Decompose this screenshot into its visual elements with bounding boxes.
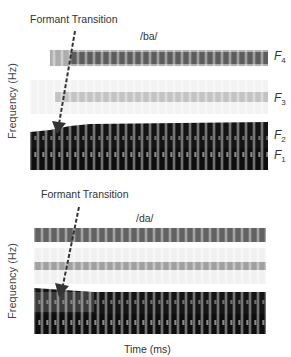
annotation-formant-transition-top: Formant Transition bbox=[30, 13, 118, 25]
spectrogram-da bbox=[34, 222, 266, 334]
formant-label-f4: F4 bbox=[274, 49, 286, 65]
annotation-formant-transition-bottom: Formant Transition bbox=[41, 188, 129, 200]
x-axis-label: Time (ms) bbox=[124, 343, 171, 355]
y-axis-label-top: Frequency (Hz) bbox=[6, 63, 18, 139]
formant-label-f2: F2 bbox=[274, 128, 286, 144]
formant-label-f1: F1 bbox=[274, 148, 286, 164]
spectrogram-ba bbox=[30, 40, 268, 170]
formant-label-f3: F3 bbox=[274, 91, 286, 107]
f2-highlights-da bbox=[34, 300, 266, 304]
f1-highlights bbox=[30, 152, 268, 157]
y-axis-label-bottom: Frequency (Hz) bbox=[6, 243, 18, 319]
f1-highlights-da bbox=[34, 320, 266, 325]
f2-highlights bbox=[30, 136, 268, 140]
striation-overlay bbox=[30, 40, 268, 170]
striation-overlay-da bbox=[34, 222, 266, 334]
